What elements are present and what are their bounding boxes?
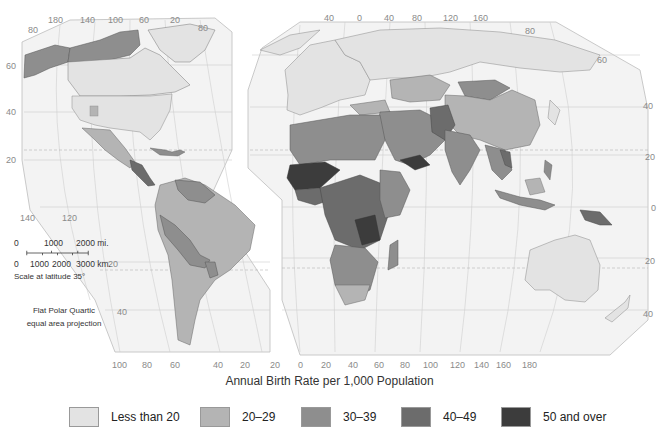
scale-bar-block: 0 1000 2000 mi. 0 1000 2000 3000 km.: [14, 238, 124, 270]
scale-km-2000: 2000: [52, 259, 71, 269]
scale-km-labels: 0 1000 2000 3000 km.: [14, 259, 124, 270]
legend-label: 20–29: [242, 410, 275, 424]
legend-item-40-49: 40–49: [401, 406, 476, 428]
tick-lat-60-left: 60: [6, 62, 16, 71]
tick-lon-160e-top: 160: [473, 14, 488, 23]
tick-lon-180-bottom: 180: [522, 361, 537, 370]
tick-lat-20s-right: 20: [645, 257, 655, 266]
tick-lat-80-americas-right: 80: [198, 24, 208, 33]
tick-lon-100e-bottom: 100: [423, 361, 438, 370]
tick-lon-60e-bottom: 60: [374, 361, 384, 370]
tick-lat-20-left: 20: [6, 156, 16, 165]
projection-note: Flat Polar Quartic equal area projection: [14, 304, 114, 330]
tick-lat-80-left: 80: [28, 26, 38, 35]
tick-lon-0-top: 0: [357, 14, 362, 23]
tick-lon-20: 20: [170, 16, 180, 25]
scale-mi-0: 0: [14, 238, 19, 248]
scale-km-0: 0: [14, 259, 19, 269]
projection-line-2: equal area projection: [14, 317, 114, 330]
legend-item-20-29: 20–29: [200, 406, 275, 428]
region-utah: [90, 106, 98, 116]
tick-lon-120-lower: 120: [62, 214, 77, 223]
legend-label: 50 and over: [543, 410, 606, 424]
legend-label: 40–49: [443, 410, 476, 424]
tick-lat-80-right: 80: [525, 27, 535, 36]
tick-lon-40w-top: 40: [324, 14, 334, 23]
legend-item-less-than-20: Less than 20: [69, 406, 180, 428]
legend-item-50-and-over: 50 and over: [501, 406, 606, 428]
tick-lat-0-right: 0: [651, 204, 656, 213]
scale-miles-labels: 0 1000 2000 mi.: [14, 238, 124, 249]
tick-lat-40-left: 40: [6, 108, 16, 117]
legend-swatch: [200, 407, 230, 427]
tick-lon-20-bottom: 20: [240, 361, 250, 370]
tick-lon-160e-bottom: 160: [496, 361, 511, 370]
scale-km-3000: 3000 km.: [76, 259, 111, 269]
tick-lon-140: 140: [80, 16, 95, 25]
tick-lon-80-bottom: 80: [142, 361, 152, 370]
tick-lon-140-lower: 140: [20, 214, 35, 223]
tick-lon-80e-top: 80: [412, 14, 422, 23]
scale-caption: Scale at latitude 35°: [14, 272, 85, 281]
tick-lat-40-right: 40: [643, 102, 653, 111]
legend-swatch: [401, 407, 431, 427]
tick-lon-60-bottom: 60: [170, 361, 180, 370]
tick-lat-40s-right: 40: [643, 310, 653, 319]
legend: Less than 20 20–29 30–39 40–49 50 and ov…: [0, 406, 659, 428]
tick-lon-120e-bottom: 120: [450, 361, 465, 370]
tick-lon-40e-bottom: 40: [348, 361, 358, 370]
tick-lon-100-bottom: 100: [112, 361, 127, 370]
tick-lon-140e-bottom: 140: [474, 361, 489, 370]
tick-lat-20-right: 20: [645, 153, 655, 162]
scale-bar: [14, 250, 104, 256]
tick-lon-40-bottom: 40: [213, 361, 223, 370]
tick-lon-20e-bottom: 20: [321, 361, 331, 370]
projection-line-1: Flat Polar Quartic: [14, 304, 114, 317]
scale-mi-2000: 2000 mi.: [76, 238, 109, 248]
tick-lat-60-right: 60: [597, 56, 607, 65]
legend-label: 30–39: [343, 410, 376, 424]
tick-lat-40-south: 40: [117, 308, 127, 317]
tick-lon-40e-top: 40: [384, 14, 394, 23]
region-north-africa: [290, 115, 385, 165]
legend-swatch: [501, 407, 531, 427]
legend-label: Less than 20: [111, 410, 180, 424]
scale-km-1000: 1000: [30, 259, 49, 269]
tick-lon-120e-top: 120: [443, 14, 458, 23]
legend-title: Annual Birth Rate per 1,000 Population: [0, 374, 659, 388]
tick-lon-180: 180: [48, 16, 63, 25]
tick-lon-0-bottom: 0: [298, 361, 303, 370]
tick-lon-80e-bottom: 80: [400, 361, 410, 370]
legend-swatch: [301, 407, 331, 427]
legend-swatch: [69, 407, 99, 427]
tick-lon-60: 60: [139, 16, 149, 25]
tick-lon-20w-bottom: 20: [270, 361, 280, 370]
tick-lon-100: 100: [108, 16, 123, 25]
legend-item-30-39: 30–39: [301, 406, 376, 428]
scale-mi-1000: 1000: [44, 238, 63, 248]
